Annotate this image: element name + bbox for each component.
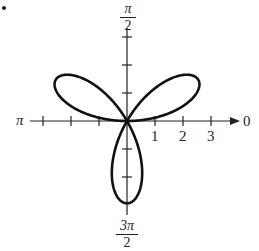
radial-tick-2: 2 bbox=[179, 128, 187, 145]
radial-tick-3: 3 bbox=[207, 128, 215, 145]
arrow-head-icon bbox=[230, 117, 240, 125]
label-3pi-over-2: 3π 2 bbox=[116, 219, 138, 250]
label-pi-over-2: π 2 bbox=[120, 2, 136, 33]
label-pi: π bbox=[16, 113, 24, 128]
radial-tick-1: 1 bbox=[151, 128, 159, 145]
label-zero: 0 bbox=[243, 114, 251, 129]
polar-plot bbox=[0, 0, 259, 251]
